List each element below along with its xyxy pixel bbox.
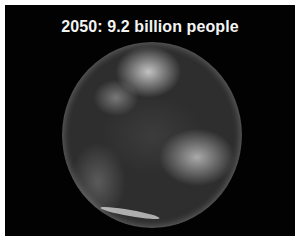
slide-title: 2050: 9.2 billion people (5, 18, 295, 36)
earth-globe-image (62, 42, 242, 228)
slide-panel: 2050: 9.2 billion people (5, 5, 295, 236)
